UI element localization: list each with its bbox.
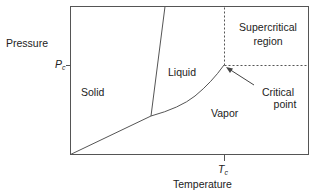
supercritical-region-label: Supercritical region [232,21,304,47]
arrow-head-icon [226,67,233,73]
supercritical-line1: Supercritical [232,21,304,33]
tc-label: Tc [218,163,228,179]
pc-subscript: c [62,64,66,71]
critical-point-arrow [229,69,254,85]
melting-curve [151,7,165,117]
critical-point-label: Critical point [252,86,304,110]
sublimation-curve [71,116,152,155]
y-axis-label: Pressure [6,37,48,49]
critical-point-line2: point [252,98,304,110]
supercritical-line2: region [232,35,304,47]
pc-symbol: P [55,58,62,70]
tc-subscript: c [224,169,228,176]
x-axis-label: Temperature [173,178,232,190]
solid-region-label: Solid [81,86,104,98]
liquid-region-label: Liquid [168,66,196,78]
pc-label: Pc [55,58,66,74]
critical-point-line1: Critical [252,86,304,98]
vapor-region-label: Vapor [211,107,238,119]
